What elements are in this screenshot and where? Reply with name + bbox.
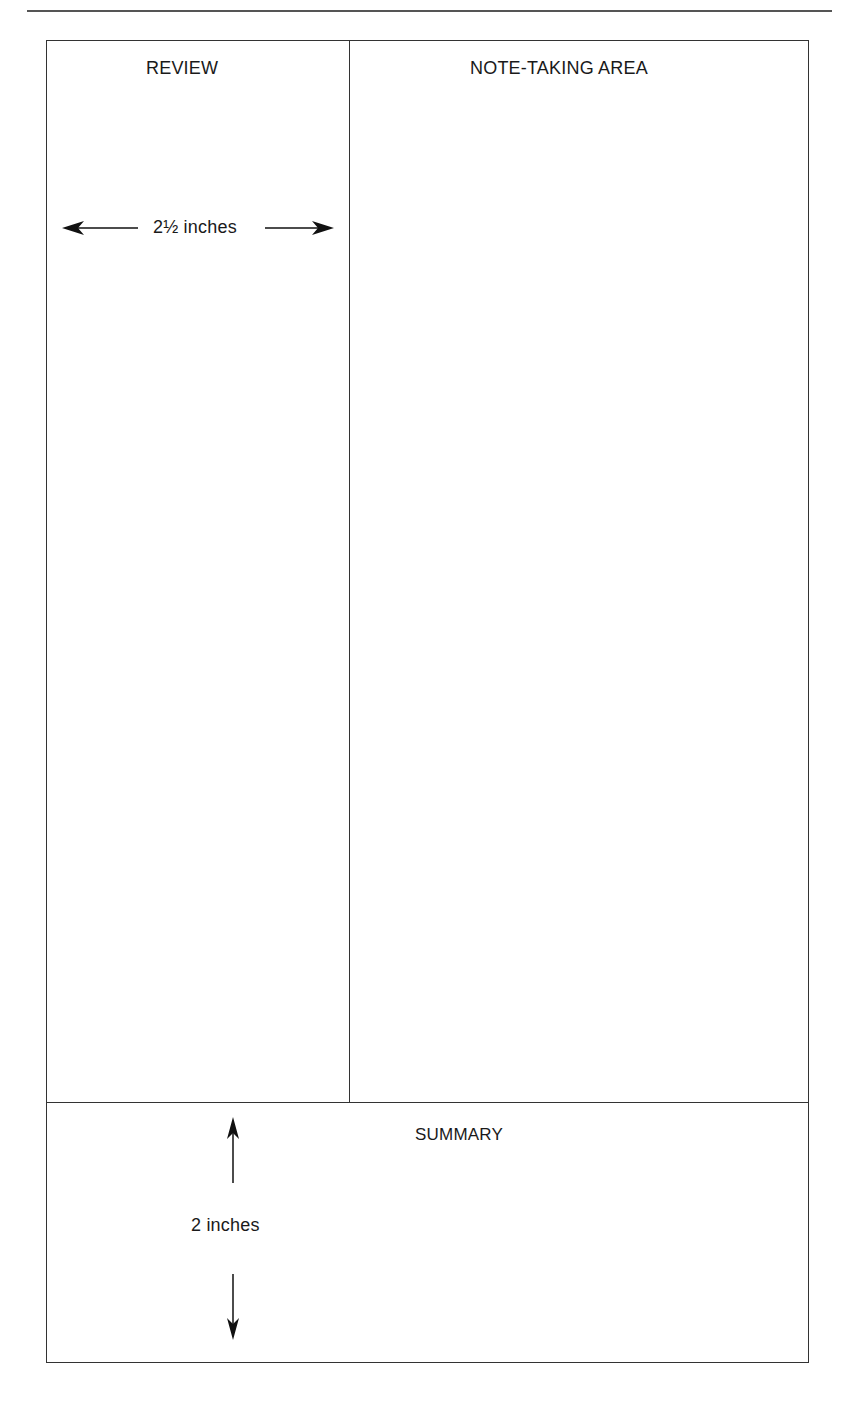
note-taking-area-label: NOTE-TAKING AREA <box>470 58 648 79</box>
arrow-up-icon <box>224 1115 242 1185</box>
review-width-dimension: 2½ inches <box>153 217 237 238</box>
review-section-label: REVIEW <box>146 58 218 79</box>
review-column-divider <box>349 40 350 1103</box>
page-header-rule <box>27 10 832 12</box>
summary-section-label: SUMMARY <box>415 1125 503 1145</box>
summary-row-divider <box>46 1102 809 1103</box>
summary-height-dimension: 2 inches <box>191 1215 260 1236</box>
arrow-down-icon <box>224 1272 242 1342</box>
